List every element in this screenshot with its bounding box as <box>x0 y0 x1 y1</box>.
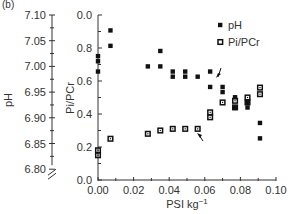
scatter-chart: (b) 7.107.057.006.956.906.856.80 0.00.80… <box>0 0 288 214</box>
svg-text:0.06: 0.06 <box>194 184 215 196</box>
pi-pcr-axis-title: Pi/PCr <box>64 82 76 114</box>
svg-text:0.04: 0.04 <box>158 184 179 196</box>
svg-text:6.85: 6.85 <box>25 138 46 150</box>
x-axis: 0.000.020.040.060.080.10 <box>87 177 286 196</box>
svg-text:6.80: 6.80 <box>25 163 46 175</box>
svg-text:0.00: 0.00 <box>87 184 108 196</box>
panel-label: (b) <box>2 0 14 10</box>
svg-text:0.8: 0.8 <box>77 42 92 54</box>
legend: pHPi/PCr <box>218 19 260 48</box>
svg-text:7.10: 7.10 <box>25 9 46 21</box>
svg-text:6.90: 6.90 <box>25 112 46 124</box>
svg-text:0.10: 0.10 <box>265 184 286 196</box>
svg-text:0.2: 0.2 <box>77 141 92 153</box>
ph-axis-title: pH <box>2 93 14 107</box>
svg-text:0.6: 0.6 <box>77 75 92 87</box>
svg-text:pH: pH <box>228 19 242 31</box>
svg-text:7.05: 7.05 <box>25 35 46 47</box>
svg-text:Pi/PCr: Pi/PCr <box>228 36 260 48</box>
x-axis-title: PSI kg−1 <box>166 197 208 210</box>
svg-text:0.4: 0.4 <box>77 108 92 120</box>
svg-text:0.02: 0.02 <box>123 184 144 196</box>
svg-text:7.00: 7.00 <box>25 60 46 72</box>
svg-text:0.08: 0.08 <box>230 184 251 196</box>
ph-axis: 7.107.057.006.956.906.856.80 <box>25 9 56 179</box>
svg-text:0.0: 0.0 <box>77 9 92 21</box>
svg-text:6.95: 6.95 <box>25 86 46 98</box>
pi-pcr-axis: 0.00.80.60.40.20.0 <box>77 9 102 186</box>
